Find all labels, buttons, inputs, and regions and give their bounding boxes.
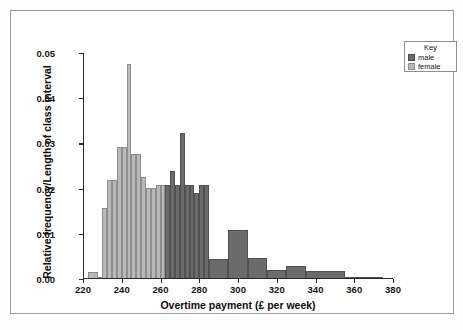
- bar-male: [267, 270, 286, 279]
- y-tick: [79, 189, 83, 190]
- y-tick: [79, 143, 83, 144]
- bar-male: [286, 266, 305, 279]
- bar-female: [88, 272, 98, 279]
- y-tick-label: 0.05: [15, 48, 55, 59]
- x-tick-label: 220: [75, 284, 91, 295]
- x-tick: [161, 279, 162, 283]
- y-tick-label: 0.04: [15, 93, 55, 104]
- x-tick-label: 240: [114, 284, 130, 295]
- x-tick-label: 360: [346, 284, 362, 295]
- x-tick: [316, 279, 317, 283]
- figure-border: Overtime payment (£ per week) Relative f…: [10, 10, 454, 314]
- x-tick: [122, 279, 123, 283]
- bar-male: [306, 271, 345, 279]
- x-tick: [199, 279, 200, 283]
- legend-label-female: female: [418, 62, 441, 71]
- y-tick: [79, 53, 83, 54]
- bar-male: [345, 277, 384, 279]
- y-tick: [79, 98, 83, 99]
- x-tick-label: 380: [385, 284, 401, 295]
- figure-canvas: Overtime payment (£ per week) Relative f…: [0, 0, 463, 330]
- legend-swatch-male-icon: [408, 54, 415, 61]
- y-tick-label: 0.00: [15, 274, 55, 285]
- legend-swatch-female-icon: [408, 63, 415, 70]
- bar-male: [209, 259, 228, 279]
- x-axis-label: Overtime payment (£ per week): [83, 299, 393, 311]
- plot-area: [83, 53, 393, 279]
- y-tick-label: 0.02: [15, 183, 55, 194]
- x-tick: [83, 279, 84, 283]
- legend-label-male: male: [418, 53, 434, 62]
- legend-entry-female: female: [408, 62, 453, 71]
- x-tick: [393, 279, 394, 283]
- y-tick: [79, 279, 83, 280]
- y-axis-label: Relative frequency/Length of class inter…: [41, 57, 53, 287]
- bar-male: [228, 230, 247, 279]
- x-tick: [277, 279, 278, 283]
- x-tick-label: 260: [153, 284, 169, 295]
- x-tick: [354, 279, 355, 283]
- bar-male: [248, 258, 267, 279]
- legend-box: Key male female: [404, 41, 457, 72]
- y-tick-label: 0.03: [15, 138, 55, 149]
- x-tick-label: 320: [269, 284, 285, 295]
- legend-title: Key: [408, 44, 453, 52]
- y-tick-label: 0.01: [15, 228, 55, 239]
- x-tick-label: 300: [230, 284, 246, 295]
- legend-entry-male: male: [408, 53, 453, 62]
- x-tick-label: 340: [308, 284, 324, 295]
- x-tick: [238, 279, 239, 283]
- x-tick-label: 280: [191, 284, 207, 295]
- y-tick: [79, 234, 83, 235]
